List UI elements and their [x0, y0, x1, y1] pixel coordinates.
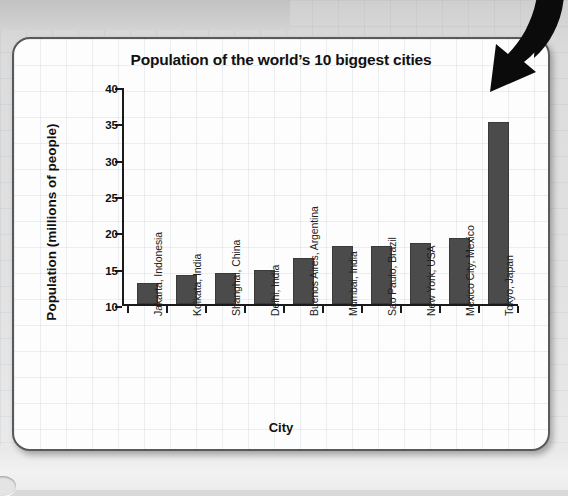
x-axis-line: [122, 304, 518, 306]
x-tick-label: Tokyo, Japan: [503, 255, 515, 316]
x-tick-label: Kolkata, India: [191, 254, 203, 316]
x-tick-mark: [400, 306, 402, 313]
y-tick-label: 30: [105, 156, 118, 168]
y-tick-label: 40: [105, 83, 118, 95]
x-tick-label: Buenos Aires, Argentina: [308, 206, 320, 316]
y-tick-label: 35: [105, 119, 118, 131]
y-axis-line: [122, 88, 124, 306]
x-tick-label: Mumbai, India: [347, 251, 359, 316]
x-tick-label: Mexico City, Mexico: [464, 225, 476, 316]
x-tick-label: New York, USA: [425, 246, 437, 316]
y-tick-label: 10: [105, 301, 118, 313]
x-axis-title: City: [14, 420, 548, 435]
backdrop-top-shading: [0, 0, 290, 30]
x-tick-mark: [166, 306, 168, 313]
y-axis-title: Population (millions of people): [44, 117, 59, 327]
x-tick-mark: [439, 306, 441, 313]
chart-title: Population of the world’s 10 biggest cit…: [14, 51, 548, 69]
x-tick-mark: [517, 306, 519, 313]
x-tick-mark: [205, 306, 207, 313]
x-tick-mark: [361, 306, 363, 313]
x-tick-mark: [244, 306, 246, 313]
x-tick-mark: [283, 306, 285, 313]
x-tick-mark: [127, 306, 129, 313]
plot-area: 40353025201510 Jakarta, IndonesiaKolkata…: [122, 88, 518, 306]
x-tick-label: Sao Paulo, Brazil: [386, 237, 398, 316]
chart-card: Population of the world’s 10 biggest cit…: [12, 37, 550, 451]
y-tick-label: 15: [105, 265, 118, 277]
x-tick-label: Delhi, India: [269, 265, 281, 316]
x-tick-label: Jakarta, Indonesia: [152, 232, 164, 316]
y-tick-label: 20: [105, 228, 118, 240]
x-tick-mark: [478, 306, 480, 313]
x-tick-mark: [322, 306, 324, 313]
x-tick-label: Shanghai, China: [230, 240, 242, 316]
y-tick-label: 25: [105, 192, 118, 204]
backdrop-bottom-shading: [0, 446, 568, 490]
